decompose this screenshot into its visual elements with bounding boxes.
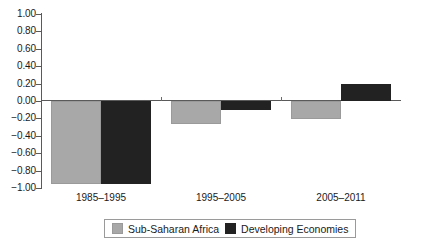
legend-swatch-icon-sub-saharan-africa xyxy=(112,223,123,234)
x-axis-tick xyxy=(161,97,162,101)
y-axis-tick-label: 1.00 xyxy=(0,9,36,19)
y-axis-tick-label-text: −0.80 xyxy=(2,166,36,176)
chart-legend: Sub-Saharan Africa Developing Economies xyxy=(104,219,356,238)
y-axis-tick xyxy=(36,101,41,102)
y-axis-tick-label: −0.20 xyxy=(0,113,36,123)
category-label: 1985–1995 xyxy=(41,192,161,204)
y-axis-tick-label: −0.80 xyxy=(0,166,36,176)
y-axis-tick-label: 0.20 xyxy=(0,79,36,89)
y-axis-tick xyxy=(36,66,41,67)
category-label: 2005–2011 xyxy=(281,192,401,204)
bar-sub-saharan-africa xyxy=(51,101,101,184)
y-axis-tick-label-text: −1.00 xyxy=(2,183,36,193)
y-axis-tick xyxy=(36,171,41,172)
y-axis-tick-label-text: 0.80 xyxy=(2,26,36,36)
y-axis-tick-label: 0.60 xyxy=(0,44,36,54)
y-axis-tick xyxy=(36,84,41,85)
legend-swatch-icon-developing-economies xyxy=(225,223,236,234)
y-axis-tick xyxy=(36,31,41,32)
bar-developing-economies xyxy=(221,101,271,110)
y-axis-line xyxy=(41,13,42,189)
bar-developing-economies xyxy=(341,84,391,101)
legend-item-developing-economies: Developing Economies xyxy=(225,223,348,235)
y-axis-tick xyxy=(36,188,41,189)
y-axis-tick-label-text: −0.60 xyxy=(2,148,36,158)
legend-label-sub-saharan-africa: Sub-Saharan Africa xyxy=(128,223,219,235)
bar-chart: 1.000.800.600.400.200.00−0.20−0.40−0.60−… xyxy=(0,0,421,245)
legend-label-developing-economies: Developing Economies xyxy=(241,223,348,235)
y-axis-tick-label: −1.00 xyxy=(0,183,36,193)
bar-sub-saharan-africa xyxy=(171,101,221,124)
y-axis-tick-label-text: 0.20 xyxy=(2,79,36,89)
category-label: 1995–2005 xyxy=(161,192,281,204)
y-axis-tick-label: −0.60 xyxy=(0,148,36,158)
y-axis-tick xyxy=(36,118,41,119)
y-axis-tick-label-text: 0.00 xyxy=(2,96,36,106)
y-axis-tick xyxy=(36,49,41,50)
y-axis-tick-label-text: 0.60 xyxy=(2,44,36,54)
bar-sub-saharan-africa xyxy=(291,101,341,119)
y-axis-tick-label-text: 0.40 xyxy=(2,61,36,71)
y-axis-tick-label-text: 1.00 xyxy=(2,9,36,19)
y-axis-tick xyxy=(36,136,41,137)
y-axis-tick xyxy=(36,153,41,154)
bar-developing-economies xyxy=(101,101,151,184)
y-axis-tick-label-text: −0.20 xyxy=(2,113,36,123)
x-axis-tick xyxy=(281,97,282,101)
y-axis-tick-label: 0.40 xyxy=(0,61,36,71)
y-axis-tick-label-text: −0.40 xyxy=(2,131,36,141)
y-axis-tick-label: 0.00 xyxy=(0,96,36,106)
legend-item-sub-saharan-africa: Sub-Saharan Africa xyxy=(112,223,219,235)
y-axis-tick xyxy=(36,14,41,15)
y-axis-tick-label: −0.40 xyxy=(0,131,36,141)
y-axis-tick-label: 0.80 xyxy=(0,26,36,36)
